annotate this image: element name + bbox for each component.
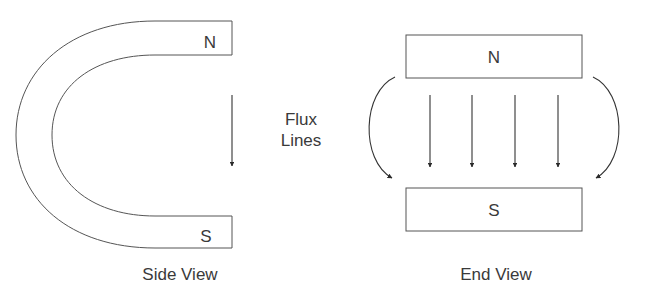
side-south-label: S [200, 227, 211, 246]
side-north-label: N [204, 33, 216, 52]
magnet-diagram: N S Flux Lines Side View N S End View [0, 0, 648, 289]
side-view-caption: Side View [142, 265, 218, 284]
flux-label-line2: Lines [281, 131, 322, 150]
end-flux-arrows [369, 77, 619, 178]
curved-flux-arrow-left-icon [369, 77, 395, 178]
end-north-label: N [488, 48, 500, 67]
curved-flux-arrow-right-icon [593, 77, 619, 178]
end-view-caption: End View [460, 265, 532, 284]
horseshoe-magnet [16, 21, 232, 248]
flux-label-line1: Flux [285, 110, 318, 129]
end-south-label: S [488, 201, 499, 220]
